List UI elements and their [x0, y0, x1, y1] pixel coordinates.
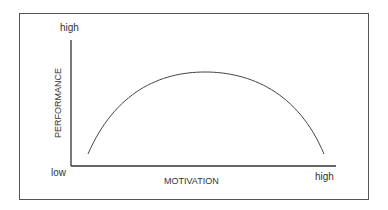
x-high-label: high [315, 171, 334, 182]
x-axis-label: MOTIVATION [164, 176, 219, 186]
performance-curve [88, 72, 324, 154]
y-high-label: high [60, 22, 79, 33]
y-axis-label: PERFORMANCE [53, 68, 63, 138]
y-low-label: low [51, 167, 66, 178]
